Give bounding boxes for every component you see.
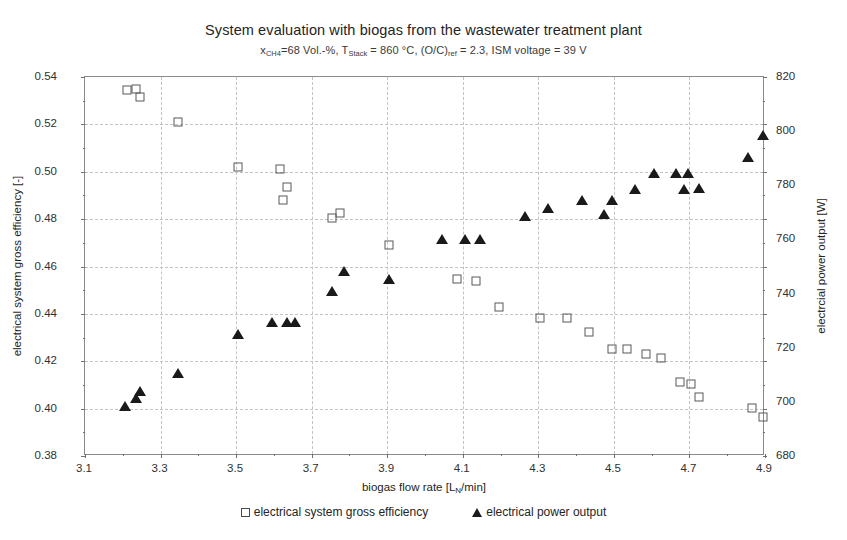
x-axis-tick-label: 3.7: [291, 462, 331, 474]
legend-open-square-marker-icon: [241, 508, 250, 517]
tick-x-minor: [198, 454, 199, 456]
gridline-horizontal: [85, 124, 763, 125]
x-axis-tick-label: 4.7: [668, 462, 708, 474]
tick-y-left: [81, 314, 85, 315]
tick-x: [689, 454, 690, 458]
x-axis-tick-label: 4.9: [744, 462, 784, 474]
open-square-marker-icon: [562, 314, 571, 323]
tick-x-minor: [349, 454, 350, 456]
filled-triangle-marker-icon: [682, 168, 694, 178]
open-square-marker-icon: [234, 162, 243, 171]
data-point-power: [232, 329, 244, 339]
tick-y-left: [81, 77, 85, 78]
data-point-power: [436, 234, 448, 244]
data-point-efficiency: [453, 274, 462, 283]
tick-y-left-minor: [83, 243, 85, 244]
tick-x: [312, 454, 313, 458]
tick-y-right-minor: [763, 243, 765, 244]
filled-triangle-marker-icon: [289, 317, 301, 327]
open-square-marker-icon: [676, 378, 685, 387]
data-point-power: [289, 317, 301, 327]
open-square-marker-icon: [623, 345, 632, 354]
data-point-efficiency: [536, 314, 545, 323]
open-square-marker-icon: [536, 314, 545, 323]
legend-item-2[interactable]: electrical power output: [472, 505, 606, 519]
tick-y-left: [81, 409, 85, 410]
x-axis-tick-label: 3.1: [64, 462, 104, 474]
data-point-power: [678, 184, 690, 194]
data-point-power: [606, 195, 618, 205]
data-point-power: [383, 274, 395, 284]
data-point-power: [119, 401, 131, 411]
data-point-efficiency: [585, 327, 594, 336]
filled-triangle-marker-icon: [338, 266, 350, 276]
legend-filled-triangle-marker-icon: [472, 508, 482, 517]
data-point-efficiency: [385, 241, 394, 250]
x-axis-title-part-2: /min]: [461, 481, 486, 493]
filled-triangle-marker-icon: [266, 317, 278, 327]
y-axis-left-tick-label: 0.44: [13, 307, 57, 319]
subtitle-sub-ref: ref: [448, 49, 457, 58]
tick-y-right: [763, 314, 767, 315]
open-square-marker-icon: [336, 209, 345, 218]
tick-x: [85, 454, 86, 458]
tick-x-minor: [652, 454, 653, 456]
filled-triangle-marker-icon: [678, 184, 690, 194]
open-square-marker-icon: [173, 117, 182, 126]
tick-x-minor: [123, 454, 124, 456]
data-point-power: [326, 286, 338, 296]
x-axis-tick-label: 4.1: [442, 462, 482, 474]
filled-triangle-marker-icon: [542, 203, 554, 213]
data-point-efficiency: [275, 165, 284, 174]
gridline-vertical: [463, 77, 464, 454]
filled-triangle-marker-icon: [436, 234, 448, 244]
data-point-efficiency: [472, 276, 481, 285]
chart-legend: electrical system gross efficiencyelectr…: [0, 505, 847, 519]
filled-triangle-marker-icon: [459, 234, 471, 244]
data-point-power: [338, 266, 350, 276]
tick-y-right-minor: [763, 338, 765, 339]
data-point-power: [474, 234, 486, 244]
open-square-marker-icon: [687, 379, 696, 388]
gridline-vertical: [161, 77, 162, 454]
tick-y-left-minor: [83, 338, 85, 339]
data-point-efficiency: [676, 378, 685, 387]
tick-y-right-minor: [763, 432, 765, 433]
data-point-power: [742, 152, 754, 162]
filled-triangle-marker-icon: [742, 152, 754, 162]
x-axis-title: biogas flow rate [LN/min]: [84, 481, 764, 495]
y-axis-left-tick-label: 0.48: [13, 212, 57, 224]
y-axis-left-tick-label: 0.40: [13, 402, 57, 414]
data-point-efficiency: [494, 303, 503, 312]
gridline-vertical: [236, 77, 237, 454]
data-point-power: [172, 368, 184, 378]
subtitle-part-4: = 2.3, ISM voltage = 39 V: [457, 44, 587, 56]
open-square-marker-icon: [472, 276, 481, 285]
open-square-marker-icon: [385, 241, 394, 250]
tick-y-right-minor: [763, 101, 765, 102]
tick-x: [463, 454, 464, 458]
tick-y-right: [763, 361, 767, 362]
filled-triangle-marker-icon: [232, 329, 244, 339]
tick-y-left: [81, 124, 85, 125]
tick-x-minor: [501, 454, 502, 456]
y-axis-left-tick-label: 0.52: [13, 117, 57, 129]
tick-y-left: [81, 361, 85, 362]
tick-y-right: [763, 219, 767, 220]
tick-x: [765, 454, 766, 458]
y-axis-left-tick-label: 0.38: [13, 449, 57, 461]
filled-triangle-marker-icon: [576, 195, 588, 205]
data-point-power: [629, 184, 641, 194]
data-point-efficiency: [173, 117, 182, 126]
tick-y-left-minor: [83, 148, 85, 149]
plot-area: [84, 76, 764, 455]
open-square-marker-icon: [453, 274, 462, 283]
open-square-marker-icon: [283, 183, 292, 192]
legend-item-1[interactable]: electrical system gross efficiency: [241, 505, 429, 519]
data-point-efficiency: [687, 379, 696, 388]
x-axis-tick-label: 3.3: [140, 462, 180, 474]
tick-y-right-minor: [763, 290, 765, 291]
gridline-horizontal: [85, 219, 763, 220]
filled-triangle-marker-icon: [383, 274, 395, 284]
tick-y-right-minor: [763, 148, 765, 149]
